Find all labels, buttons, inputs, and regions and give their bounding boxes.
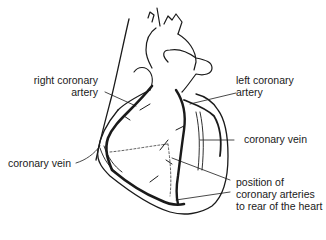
right-atrium xyxy=(134,68,152,91)
label-coronary-vein-right-text: coronary vein xyxy=(244,133,307,145)
artery-branches xyxy=(124,104,184,182)
label-rear-arteries-line3: to rear of the heart xyxy=(236,200,322,212)
aorta-outline xyxy=(146,28,196,70)
label-left-coronary-artery: left coronary artery xyxy=(236,74,294,98)
label-right-coronary-artery: right coronary artery xyxy=(26,74,98,98)
label-left-coronary-line2: artery xyxy=(236,86,294,98)
pulmonary-trunk xyxy=(164,49,212,92)
label-rear-arteries: position of coronary arteries to rear of… xyxy=(236,176,322,212)
label-rear-arteries-line1: position of xyxy=(236,176,322,188)
left-coronary-artery xyxy=(176,90,185,204)
label-coronary-vein-left-text: coronary vein xyxy=(8,157,71,169)
leader-rear-arteries-1 xyxy=(172,158,230,180)
coronary-vein-right xyxy=(196,112,203,170)
label-rear-arteries-line2: coronary arteries xyxy=(236,188,322,200)
label-right-coronary-line1: right coronary xyxy=(26,74,98,86)
label-right-coronary-line2: artery xyxy=(26,86,98,98)
label-coronary-vein-left: coronary vein xyxy=(8,157,71,169)
right-coronary-artery xyxy=(106,86,184,205)
label-left-coronary-line1: left coronary xyxy=(236,74,294,86)
label-coronary-vein-right: coronary vein xyxy=(244,133,307,145)
leader-rear-arteries-2 xyxy=(176,192,230,200)
